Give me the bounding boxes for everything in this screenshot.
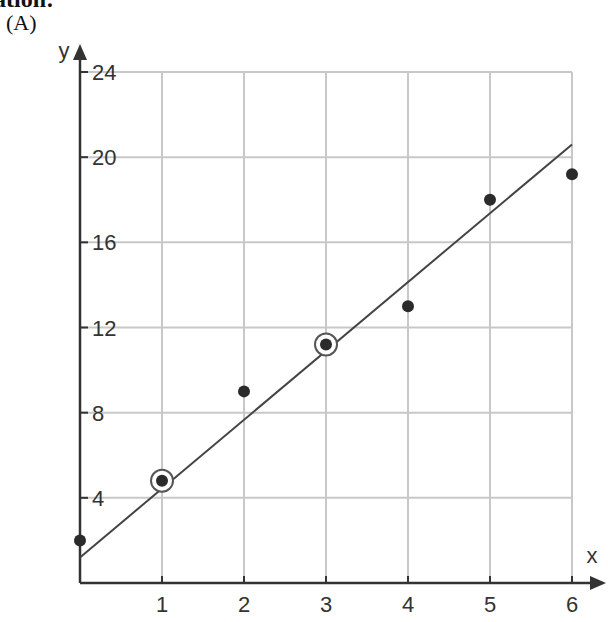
y-tick-label: 4 bbox=[92, 486, 104, 511]
y-axis-label: y bbox=[59, 38, 70, 63]
data-point bbox=[402, 300, 414, 312]
data-point bbox=[566, 168, 578, 180]
data-point bbox=[238, 385, 250, 397]
y-tick-label: 24 bbox=[92, 60, 116, 85]
x-tick-label: 4 bbox=[402, 592, 414, 617]
data-point bbox=[74, 534, 86, 546]
data-point bbox=[320, 339, 332, 351]
y-tick-label: 16 bbox=[92, 230, 116, 255]
y-tick-label: 12 bbox=[92, 316, 116, 341]
axes bbox=[73, 44, 606, 590]
y-tick-label: 20 bbox=[92, 145, 116, 170]
grid bbox=[80, 72, 572, 583]
x-axis-arrow-icon bbox=[590, 576, 606, 590]
x-axis-label: x bbox=[587, 543, 598, 568]
data-point bbox=[156, 475, 168, 487]
x-tick-label: 5 bbox=[484, 592, 496, 617]
x-tick-label: 3 bbox=[320, 592, 332, 617]
x-tick-label: 1 bbox=[156, 592, 168, 617]
scatter-chart: 1234564812162024xy bbox=[0, 0, 608, 622]
data-point bbox=[484, 194, 496, 206]
x-tick-label: 6 bbox=[566, 592, 578, 617]
y-axis-arrow-icon bbox=[73, 44, 87, 60]
x-tick-label: 2 bbox=[238, 592, 250, 617]
y-tick-label: 8 bbox=[92, 401, 104, 426]
